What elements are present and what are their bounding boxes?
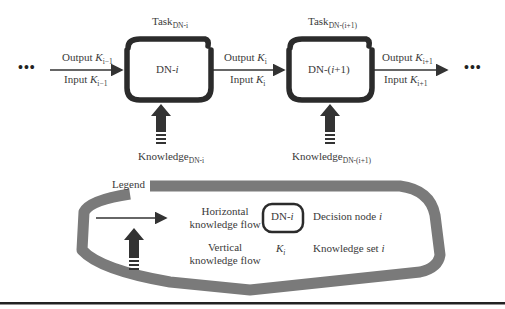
knowledge-label-dn-i-plus-1: KnowledgeDN-(i+1) [292,150,371,165]
task-label-dn-i-plus-1: TaskDN-(i+1) [308,15,357,30]
legend-kset-symbol: Ki [276,242,285,257]
node-label-dn-i-plus-1: DN-(i+1) [308,63,350,75]
legend-kset-desc: Knowledge set i [313,242,385,254]
ellipsis-right: ••• [464,60,482,76]
edge-input-label-1: Input Ki [230,73,265,88]
edge-output-label-2: Output Ki+1 [382,51,433,66]
vertical-flow-arrow-2 [320,104,340,144]
legend-node-symbol-label: DN-i [271,210,294,222]
legend-node-desc: Decision node i [313,210,382,222]
legend-vertical-arrow [124,228,144,270]
legend-title: Legend [112,178,145,190]
vertical-flow-arrow-1 [151,104,171,144]
edge-output-label-1: Output Ki [224,51,267,66]
node-label-dn-i: DN-i [156,63,179,75]
edge-input-label-2: Input Ki+1 [384,73,427,88]
legend-horizontal-label: Horizontalknowledge flow [180,205,270,231]
ellipsis-left: ••• [18,60,36,76]
legend-vertical-label: Verticalknowledge flow [180,241,270,267]
edge-output-label-0: Output Ki−1 [62,51,113,66]
task-label-dn-i: TaskDN-i [152,15,188,30]
edge-input-label-0: Input Ki−1 [64,73,107,88]
bottom-divider [0,302,505,305]
knowledge-label-dn-i: KnowledgeDN-i [138,150,204,165]
